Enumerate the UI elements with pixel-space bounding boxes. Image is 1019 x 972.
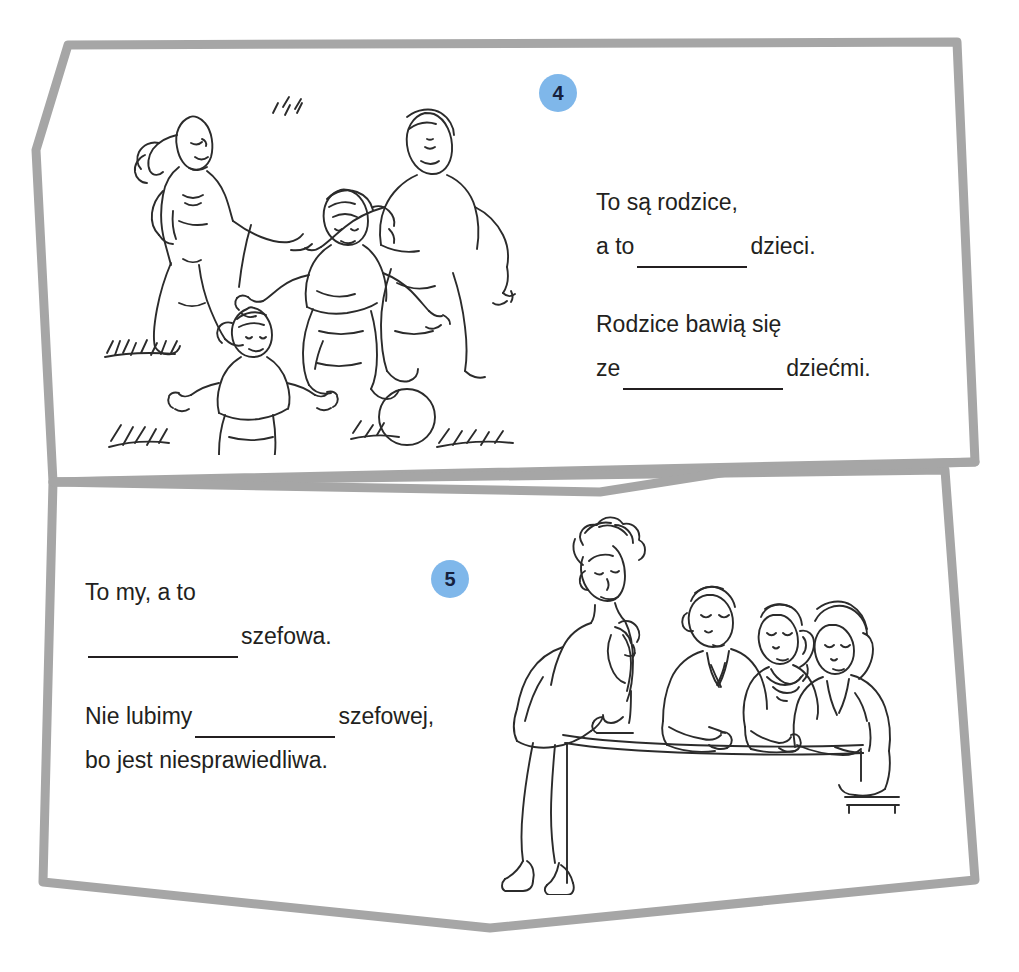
sentence-line: To my, a to [85,570,332,614]
line-text-after: szefowa. [241,623,332,649]
line-text-before: ze [596,355,620,381]
exercise-5-sentence-2: Nie lubimyszefowej, bo jest niesprawiedl… [85,694,434,782]
sentence-line: szefowa. [85,614,332,658]
office-boss-and-employees-illustration [455,505,925,895]
exercise-5-sentence-1: To my, a to szefowa. [85,570,332,658]
line-text-after: dzieci. [750,233,815,259]
sentence-line: To są rodzice, [596,180,816,224]
worksheet-page: 4 [0,0,1019,972]
exercise-4-sentence-2: Rodzice bawią się zedziećmi. [596,302,871,390]
sentence-line: zedziećmi. [596,346,871,390]
line-text-after: szefowej, [338,703,434,729]
line-text-before: a to [596,233,634,259]
line-text-after: dziećmi. [786,355,870,381]
fill-in-blank[interactable] [637,246,747,268]
line-text-before: Nie lubimy [85,703,192,729]
line-text-before: Rodzice bawią się [596,311,781,337]
sentence-line: Nie lubimyszefowej, [85,694,434,738]
panel-divider-kink [53,462,975,492]
exercise-4-sentence-1: To są rodzice, a todzieci. [596,180,816,268]
fill-in-blank[interactable] [195,716,335,738]
line-text-before: To my, a to [85,579,196,605]
fill-in-blank[interactable] [623,368,783,390]
sentence-line: bo jest niesprawiedliwa. [85,738,434,782]
line-text-before: bo jest niesprawiedliwa. [85,747,328,773]
sentence-line: a todzieci. [596,224,816,268]
line-text-before: To są rodzice, [596,189,738,215]
sentence-line: Rodzice bawią się [596,302,871,346]
fill-in-blank[interactable] [88,636,238,658]
family-playing-ball-illustration [95,95,545,455]
